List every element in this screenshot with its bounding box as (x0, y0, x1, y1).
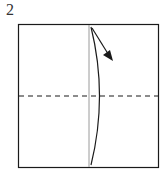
origami-diagram (0, 0, 168, 183)
